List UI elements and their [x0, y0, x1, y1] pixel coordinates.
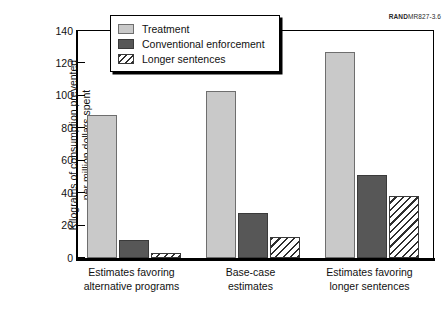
- chart-legend: TreatmentConventional enforcementLonger …: [110, 15, 280, 72]
- legend-label-enforcement: Conventional enforcement: [142, 38, 265, 50]
- y-tick-label: 100: [55, 89, 73, 101]
- rand-brand-label: RAND: [389, 13, 408, 20]
- y-tick-label: 20: [61, 219, 73, 231]
- legend-item-sentences: Longer sentences: [118, 51, 265, 66]
- bar-treatment-1: [87, 115, 117, 258]
- bar-enforcement-1: [119, 240, 149, 258]
- legend-swatch-enforcement: [118, 39, 134, 49]
- bar-treatment-3: [325, 52, 355, 258]
- legend-item-treatment: Treatment: [118, 21, 265, 36]
- y-tick-label: 120: [55, 57, 73, 69]
- bar-sentences-3: [389, 196, 419, 258]
- bar-sentences-2: [270, 237, 300, 258]
- legend-item-enforcement: Conventional enforcement: [118, 36, 265, 51]
- figure-identifier: RANDMR827-3.6: [389, 13, 441, 20]
- y-tick-label: 80: [61, 122, 73, 134]
- y-tick-label: 0: [67, 252, 73, 264]
- y-tick-label: 140: [55, 25, 73, 37]
- bar-treatment-2: [206, 91, 236, 258]
- legend-label-treatment: Treatment: [142, 23, 189, 35]
- y-tick-label: 60: [61, 154, 73, 166]
- legend-label-sentences: Longer sentences: [142, 53, 225, 65]
- figure-code-label: MR827-3.6: [408, 13, 441, 20]
- legend-swatch-sentences: [118, 54, 134, 64]
- x-axis-label-3: Estimates favoring longer sentences: [300, 266, 440, 293]
- legend-swatch-treatment: [118, 24, 134, 34]
- bar-enforcement-3: [357, 175, 387, 258]
- bar-group-3: [325, 31, 419, 258]
- bar-enforcement-2: [238, 213, 268, 258]
- y-tick-label: 40: [61, 187, 73, 199]
- bar-sentences-1: [151, 253, 181, 258]
